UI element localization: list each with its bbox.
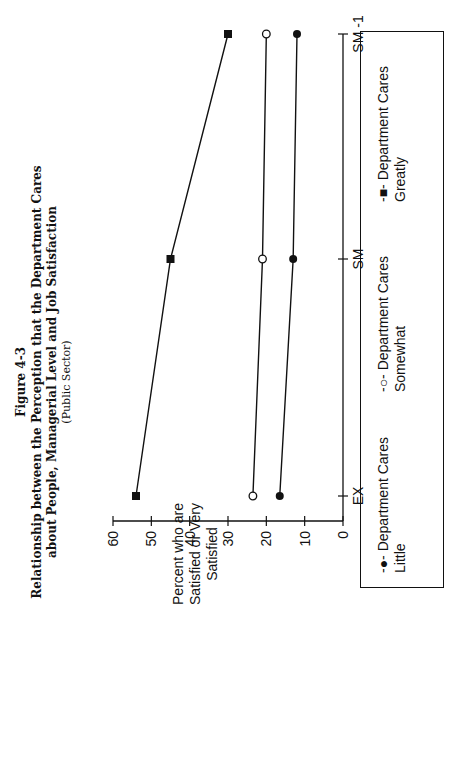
legend-item-little: -●- Department Cares Little xyxy=(375,413,409,573)
legend-item-greatly: -■- Department Cares Greatly xyxy=(375,42,409,202)
square-marker-icon xyxy=(132,492,140,500)
filled-circle-marker-icon xyxy=(289,255,297,263)
y-tick-label: 40 xyxy=(182,531,198,547)
open-circle-marker-icon xyxy=(249,492,257,500)
filled-circle-marker-icon: -●- xyxy=(375,555,391,573)
open-circle-marker-icon xyxy=(259,255,267,263)
y-tick-label: 10 xyxy=(297,531,313,547)
filled-square-marker-icon: -■- xyxy=(375,184,391,202)
series-line xyxy=(280,34,297,496)
filled-circle-marker-icon xyxy=(276,492,284,500)
series-line xyxy=(253,34,266,496)
open-circle-marker-icon: -○- xyxy=(375,374,391,392)
y-tick-label: 60 xyxy=(105,531,121,547)
y-tick-label: 0 xyxy=(335,531,351,539)
square-marker-icon xyxy=(224,30,232,38)
filled-circle-marker-icon xyxy=(293,30,301,38)
y-tick-label: 20 xyxy=(258,531,274,547)
y-tick-label: 50 xyxy=(143,531,159,547)
square-marker-icon xyxy=(167,255,175,263)
legend-item-somewhat: -○- Department Cares Somewhat xyxy=(375,222,409,392)
rotated-figure-page: Figure 4-3 Relationship between the Perc… xyxy=(0,0,455,764)
series-line xyxy=(136,34,228,496)
y-tick-label: 30 xyxy=(220,531,236,547)
open-circle-marker-icon xyxy=(263,30,271,38)
legend-box: -●- Department Cares Little -○- Departme… xyxy=(360,31,444,588)
